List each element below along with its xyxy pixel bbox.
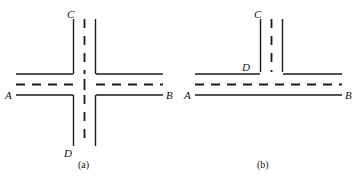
label-b-panel-b: B xyxy=(345,90,352,101)
caption-panel-b: (b) xyxy=(257,160,269,170)
diagram-a-canvas xyxy=(0,0,179,181)
label-b-panel-a: B xyxy=(166,90,173,101)
figure-root: C D A B (a) xyxy=(0,0,358,181)
label-c-panel-b: C xyxy=(254,9,261,20)
label-d-panel-b: D xyxy=(242,62,250,73)
label-d-panel-a: D xyxy=(64,148,72,159)
label-c-panel-a: C xyxy=(67,9,74,20)
diagram-panel-a: C D A B (a) xyxy=(0,0,179,181)
label-a-panel-a: A xyxy=(5,90,12,101)
label-a-panel-b: A xyxy=(184,90,191,101)
caption-panel-a: (a) xyxy=(78,160,89,170)
diagram-b-canvas xyxy=(179,0,358,181)
diagram-panel-b: C D A B (b) xyxy=(179,0,358,181)
